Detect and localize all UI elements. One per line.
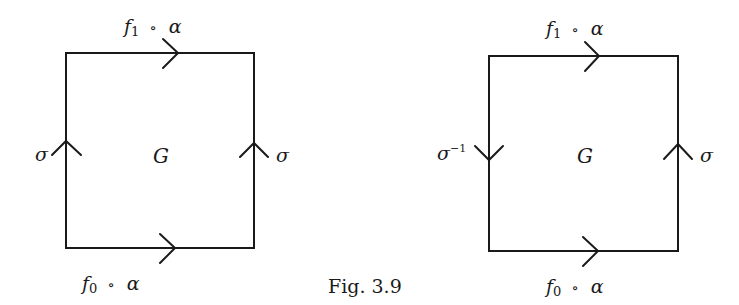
figure-canvas: f1∘α f0∘α σ σ G f1∘α f0∘α σ−1 σ G Fig. 3… xyxy=(0,0,739,305)
figure-caption: Fig. 3.9 xyxy=(328,275,402,297)
left-edge-label: σ−1 xyxy=(437,142,466,164)
right-edge-label: σ xyxy=(276,144,290,166)
right-edge-label: σ xyxy=(700,144,714,166)
top-edge-label: f1∘α xyxy=(122,15,182,39)
right-square: f1∘α f0∘α σ−1 σ G xyxy=(437,17,714,299)
bottom-edge-label: f0∘α xyxy=(544,275,604,299)
left-edge-label: σ xyxy=(35,143,49,165)
top-edge-label: f1∘α xyxy=(544,17,604,41)
center-group-label: G xyxy=(577,144,593,168)
left-square: f1∘α f0∘α σ σ G xyxy=(35,15,290,296)
center-group-label: G xyxy=(153,144,169,168)
bottom-edge-label: f0∘α xyxy=(80,272,140,296)
